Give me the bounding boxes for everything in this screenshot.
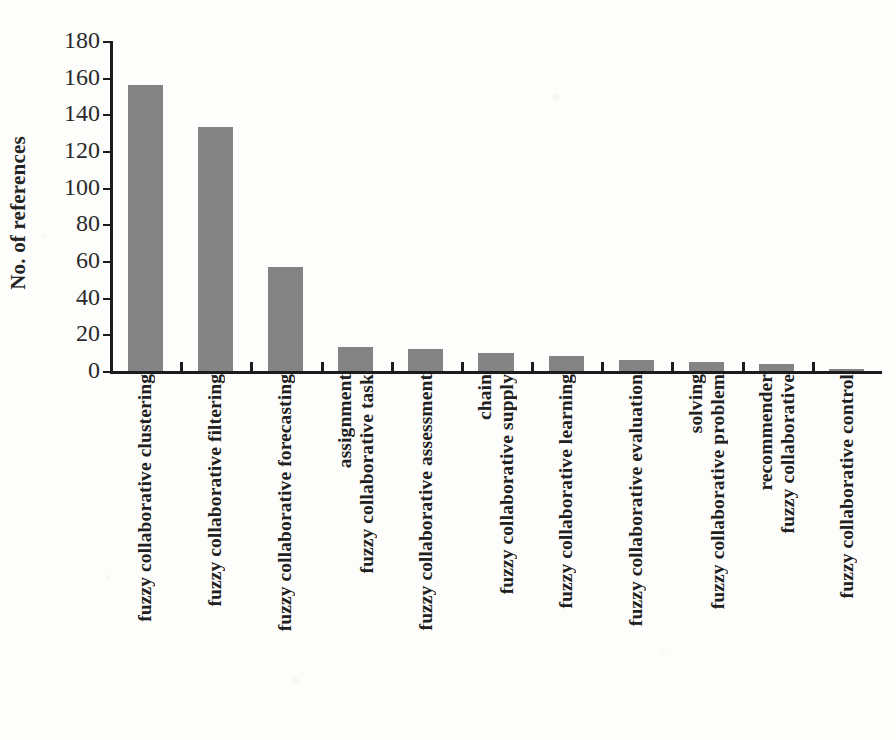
x-category-label: fuzzy collaborativerecommender xyxy=(755,374,799,674)
x-category-label: fuzzy collaborative supplychain xyxy=(474,374,518,674)
bar xyxy=(408,349,443,371)
x-category-label: fuzzy collaborative learning xyxy=(555,374,577,674)
bar-chart-figure: No. of references 1801601401201008060402… xyxy=(0,0,896,740)
x-category-label-line: recommender xyxy=(755,374,777,491)
x-category-label-line: fuzzy collaborative evaluation xyxy=(625,374,647,626)
x-category-label: fuzzy collaborative control xyxy=(836,374,858,674)
bar xyxy=(198,127,233,371)
x-category-label-line: fuzzy collaborative task xyxy=(356,374,378,574)
bar xyxy=(619,360,654,371)
x-category-label-line: fuzzy collaborative learning xyxy=(555,374,577,609)
bar xyxy=(549,356,584,371)
bar xyxy=(759,364,794,371)
x-axis-category-labels: fuzzy collaborative clusteringfuzzy coll… xyxy=(0,374,896,740)
x-category-label-line: fuzzy collaborative clustering xyxy=(134,374,156,622)
bar xyxy=(478,353,513,371)
bar xyxy=(829,369,864,371)
x-category-label: fuzzy collaborative filtering xyxy=(204,374,226,674)
x-category-label-line: fuzzy collaborative supply xyxy=(496,374,518,594)
x-category-label-line: fuzzy collaborative filtering xyxy=(204,374,226,607)
bar xyxy=(268,267,303,372)
x-category-label: fuzzy collaborative problemsolving xyxy=(685,374,729,674)
bar xyxy=(338,347,373,371)
x-category-label-line: assignment xyxy=(334,374,356,468)
x-category-label-line: fuzzy collaborative control xyxy=(836,374,858,598)
x-category-label: fuzzy collaborative forecasting xyxy=(274,374,296,674)
bar xyxy=(689,362,724,371)
x-category-label-line: solving xyxy=(685,374,707,433)
x-category-label-line: fuzzy collaborative xyxy=(777,374,799,533)
x-category-label-line: fuzzy collaborative problem xyxy=(707,374,729,609)
x-category-label: fuzzy collaborative evaluation xyxy=(625,374,647,674)
x-category-label-line: chain xyxy=(474,374,496,420)
x-category-label: fuzzy collaborative clustering xyxy=(134,374,156,674)
x-category-label-line: fuzzy collaborative assessment xyxy=(415,374,437,630)
x-category-label: fuzzy collaborative taskassignment xyxy=(334,374,378,674)
bar xyxy=(128,85,163,371)
x-category-label-line: fuzzy collaborative forecasting xyxy=(274,374,296,631)
x-category-label: fuzzy collaborative assessment xyxy=(415,374,437,674)
